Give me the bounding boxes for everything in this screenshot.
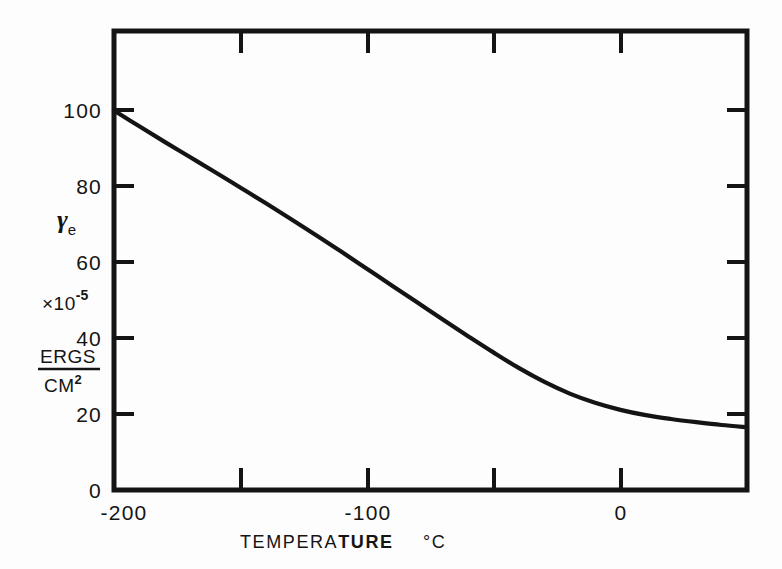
x-tick-label-minus200: -200 [101,501,148,524]
x-axis-top-ticks [241,31,621,53]
y-tick-label-100: 100 [63,99,102,122]
unit-denominator-text: CM2 [44,372,82,396]
x-tick-label-minus100: -100 [345,501,392,524]
y-axis-symbol: γe [57,205,76,238]
x-tick-labels: -200 -100 0 [101,501,628,524]
x-axis-title-lead: TEMPERA [240,532,338,552]
x-axis-title-text: TEMPERATURE [240,532,394,552]
y-tick-label-80: 80 [76,175,102,198]
scale-base: ×10 [42,293,76,314]
gamma-subscript: e [68,221,76,238]
chart-svg: 100 80 60 40 20 0 -200 -100 0 TEMPERATUR… [0,0,782,569]
unit-numerator: ERGS [40,346,96,367]
y-axis-scale-factor: ×10-5 [42,287,88,314]
x-axis-unit: °C [423,532,446,552]
y-axis-scale-text: ×10-5 [42,287,88,314]
axes-border [114,31,747,490]
x-axis-title: TEMPERATURE °C [240,532,446,552]
y-tick-label-0: 0 [89,479,102,502]
data-series-line [114,110,747,427]
scale-exponent: -5 [76,287,89,303]
unit-denominator-exponent: 2 [75,372,82,387]
gamma-symbol: γ [57,205,68,234]
y-axis-right-ticks [727,110,747,414]
plot-frame [114,31,747,490]
y-tick-label-60: 60 [76,251,102,274]
x-axis-ticks [241,468,621,490]
y-axis-symbol-text: γe [57,205,76,238]
x-tick-label-zero: 0 [615,501,628,524]
y-axis-major-ticks [114,110,134,414]
x-axis-title-bold: TURE [338,532,393,552]
y-axis-unit-fraction: ERGS CM2 [38,346,100,396]
y-tick-label-20: 20 [76,403,102,426]
figure-canvas: 100 80 60 40 20 0 -200 -100 0 TEMPERATUR… [0,0,782,569]
unit-denominator: CM [44,375,75,396]
